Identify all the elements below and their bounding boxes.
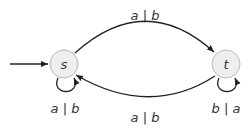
node-s: s [50,50,78,78]
node-t: t [212,50,240,78]
edge-t-to-s [76,75,215,97]
self-loop-t [218,78,237,92]
self-loop-s-label: a | b [51,101,80,116]
edge-s-to-t-label: a | b [131,8,160,23]
self-loop-t-label: b | a [212,101,241,116]
edge-t-to-s-label: a | b [131,110,160,125]
node-t-label: t [223,57,229,72]
node-s-label: s [61,57,68,72]
state-diagram: s t a | b a | b a | b b | a [0,0,249,133]
self-loop-s [57,78,76,92]
edge-s-to-t [75,21,214,53]
